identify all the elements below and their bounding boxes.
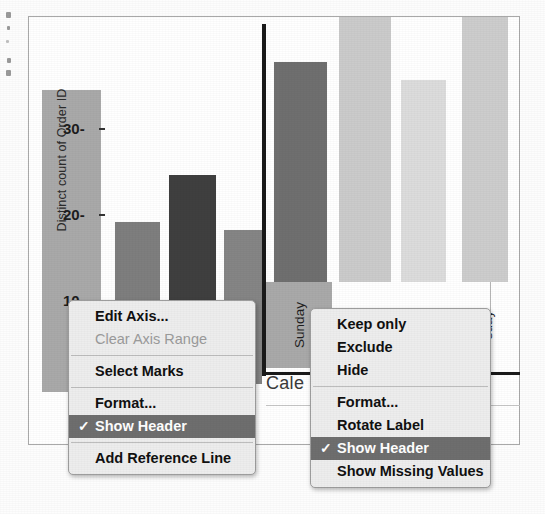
menu-item-exclude[interactable]: Exclude	[311, 336, 490, 359]
menu-separator	[313, 386, 488, 387]
scan-artifact	[6, 12, 11, 18]
y-tick-label-30: 30-	[63, 120, 260, 137]
menu-item-label: Show Header	[95, 418, 187, 434]
x-axis-header-context-menu[interactable]: Keep only Exclude Hide Format... Rotate …	[310, 308, 491, 488]
menu-separator	[71, 355, 253, 356]
scan-artifact	[6, 40, 9, 43]
menu-item-add-reference-line[interactable]: Add Reference Line	[69, 447, 255, 470]
x-axis-header-label: Sunday	[292, 302, 307, 348]
menu-item-format[interactable]: Format...	[311, 391, 490, 414]
scan-artifact	[6, 70, 11, 76]
y-axis-context-menu[interactable]: Edit Axis... Clear Axis Range Select Mar…	[68, 300, 256, 475]
menu-item-show-missing-values[interactable]: Show Missing Values	[311, 460, 490, 483]
menu-item-keep-only[interactable]: Keep only	[311, 313, 490, 336]
menu-item-clear-axis-range: Clear Axis Range	[69, 328, 255, 351]
menu-separator	[71, 442, 253, 443]
checkmark-icon: ✓	[320, 439, 332, 458]
menu-item-edit-axis[interactable]: Edit Axis...	[69, 305, 255, 328]
menu-separator	[71, 387, 253, 388]
menu-item-format[interactable]: Format...	[69, 392, 255, 415]
scan-artifact	[7, 58, 11, 63]
scan-artifact	[7, 26, 10, 30]
menu-item-rotate-label[interactable]: Rotate Label	[311, 414, 490, 437]
menu-item-hide[interactable]: Hide	[311, 359, 490, 382]
field-caption[interactable]: Cale	[266, 373, 304, 394]
y-tick-mark-30	[99, 128, 105, 130]
right-chart-plot-area	[266, 17, 520, 282]
right-bar-3[interactable]	[401, 80, 446, 282]
menu-item-show-header[interactable]: ✓ Show Header	[311, 437, 490, 460]
right-bar-2[interactable]	[339, 17, 391, 282]
screenshot-canvas: Distinct count of Order ID 30- 20- 10- S…	[0, 0, 545, 514]
menu-item-select-marks[interactable]: Select Marks	[69, 360, 255, 383]
y-axis-title[interactable]: Distinct count of Order ID	[55, 35, 69, 285]
right-bar-1[interactable]	[274, 62, 327, 282]
right-bar-4[interactable]	[462, 17, 508, 282]
menu-item-show-header[interactable]: ✓ Show Header	[69, 415, 255, 438]
pane-divider-vertical	[262, 24, 266, 376]
menu-item-label: Show Header	[337, 440, 429, 456]
y-tick-label-20: 20-	[63, 206, 260, 223]
checkmark-icon: ✓	[78, 417, 90, 436]
y-tick-mark-20	[99, 214, 105, 216]
